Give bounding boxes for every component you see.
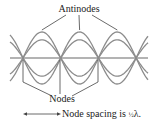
standing-wave-diagram: Antinodes Nodes Node spacing is ½λ. bbox=[0, 0, 156, 124]
node-spacing-caption: Node spacing is ½λ. bbox=[62, 108, 141, 119]
arrow-head-left bbox=[23, 112, 27, 115]
node-spacing-arrow bbox=[23, 112, 61, 115]
antinode-leader-line bbox=[79, 15, 80, 30]
nodes-label: Nodes bbox=[49, 93, 75, 104]
caption-lambda: λ. bbox=[134, 108, 141, 119]
caption-prefix: Node spacing is bbox=[62, 108, 128, 119]
arrow-head-right bbox=[57, 112, 61, 115]
antinode-leaders bbox=[42, 15, 117, 30]
antinode-leader-line bbox=[42, 15, 66, 30]
antinode-leader-line bbox=[92, 15, 117, 30]
antinodes-label: Antinodes bbox=[58, 3, 99, 14]
